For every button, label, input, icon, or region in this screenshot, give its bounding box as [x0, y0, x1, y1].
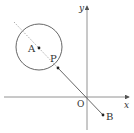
label-origin: O	[77, 99, 84, 109]
label-x-axis: x	[124, 100, 129, 110]
point-b	[102, 114, 105, 117]
point-p	[57, 67, 60, 70]
label-b: B	[106, 111, 113, 122]
diagram-canvas: A P B O x y	[0, 0, 134, 133]
point-a	[38, 47, 41, 50]
label-p: P	[50, 53, 57, 64]
geometry-figure: A P B O x y	[0, 0, 134, 133]
label-a: A	[27, 43, 36, 54]
label-y-axis: y	[78, 3, 85, 13]
